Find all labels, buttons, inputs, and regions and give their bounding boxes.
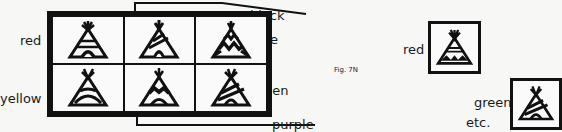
example-tipi-box <box>428 21 481 74</box>
tipi-icon <box>205 19 257 61</box>
tipi-icon <box>513 83 559 125</box>
example-note-etc: etc. <box>466 116 490 129</box>
example-label-green: green <box>474 96 512 109</box>
row-label-red: red <box>20 34 41 47</box>
grid-cell <box>195 64 267 112</box>
grid-cell <box>195 16 267 64</box>
grid-cell <box>124 16 196 64</box>
tipi-icon <box>62 67 114 109</box>
example-label-red: red <box>403 43 424 56</box>
grid-cell <box>124 64 196 112</box>
tipi-icon <box>133 19 185 61</box>
tipi-icon <box>62 19 114 61</box>
tipi-icon <box>205 67 257 109</box>
tipi-grid <box>47 11 272 117</box>
example-tipi-box <box>510 78 562 130</box>
tipi-icon <box>431 27 478 69</box>
callout-label-purple: purple <box>272 118 314 131</box>
tipi-icon <box>133 67 185 109</box>
figure-caption: Fig. 7N <box>334 66 358 74</box>
grid-cell <box>52 16 124 64</box>
grid-cell <box>52 64 124 112</box>
row-label-yellow: yellow <box>0 92 42 105</box>
